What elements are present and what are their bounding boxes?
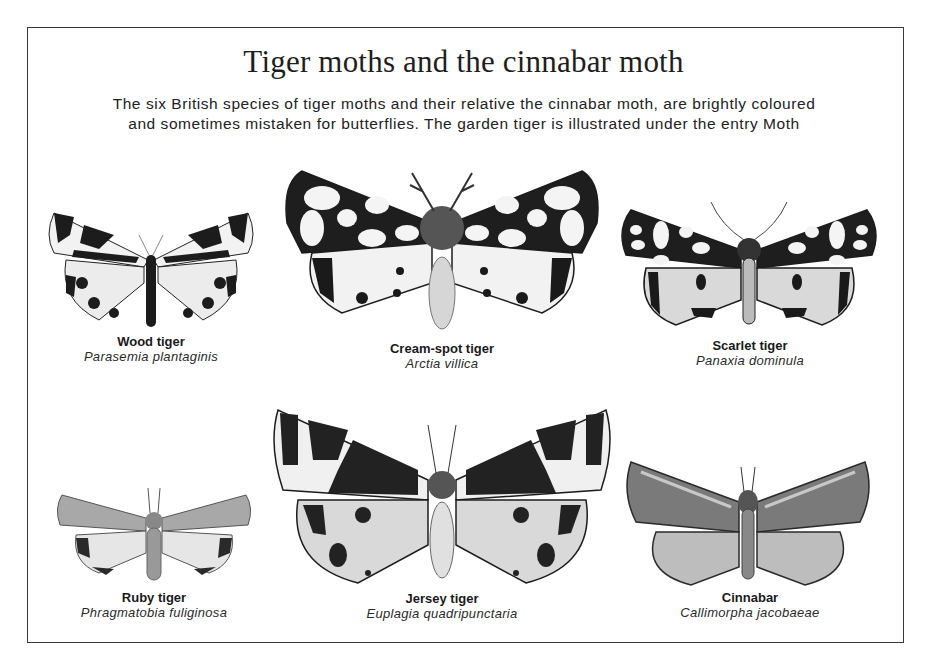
latin-name: Arctia villica: [342, 356, 542, 371]
common-name: Scarlet tiger: [650, 338, 850, 353]
intro-line-2: and sometimes mistaken for butterflies. …: [44, 114, 884, 134]
wood-tiger-illustration: [44, 205, 258, 330]
scarlet-tiger-illustration: [616, 200, 882, 330]
common-name: Ruby tiger: [54, 590, 254, 605]
common-name: Jersey tiger: [342, 591, 542, 606]
caption-cinnabar: Cinnabar Callimorpha jacobaeae: [650, 590, 850, 620]
caption-ruby-tiger: Ruby tiger Phragmatobia fuliginosa: [54, 590, 254, 620]
intro-paragraph: The six British species of tiger moths a…: [44, 94, 884, 134]
latin-name: Phragmatobia fuliginosa: [54, 605, 254, 620]
caption-wood-tiger: Wood tiger Parasemia plantaginis: [44, 334, 258, 364]
cream-spot-tiger-illustration: [282, 163, 602, 333]
page-title: Tiger moths and the cinnabar moth: [0, 44, 927, 80]
latin-name: Panaxia dominula: [650, 353, 850, 368]
ruby-tiger-illustration: [54, 483, 254, 583]
latin-name: Euplagia quadripunctaria: [342, 606, 542, 621]
caption-scarlet-tiger: Scarlet tiger Panaxia dominula: [650, 338, 850, 368]
intro-line-1: The six British species of tiger moths a…: [44, 94, 884, 114]
common-name: Cream-spot tiger: [342, 341, 542, 356]
common-name: Wood tiger: [44, 334, 258, 349]
common-name: Cinnabar: [650, 590, 850, 605]
caption-cream-spot-tiger: Cream-spot tiger Arctia villica: [342, 341, 542, 371]
jersey-tiger-illustration: [268, 405, 616, 585]
latin-name: Parasemia plantaginis: [44, 349, 258, 364]
latin-name: Callimorpha jacobaeae: [650, 605, 850, 620]
caption-jersey-tiger: Jersey tiger Euplagia quadripunctaria: [342, 591, 542, 621]
cinnabar-illustration: [621, 457, 875, 587]
